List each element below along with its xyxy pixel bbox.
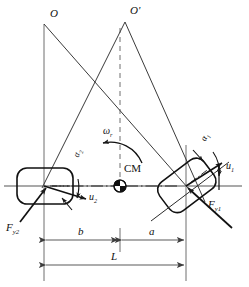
- label-o-prime: O': [130, 5, 140, 16]
- yaw-rate-arc: [103, 142, 142, 163]
- label-u2: u2: [89, 192, 97, 204]
- construction-lines: [44, 24, 186, 281]
- label-yaw-rate: ωr: [103, 126, 112, 138]
- ray-oprime-to-left-wheel: [42, 22, 125, 188]
- figure-canvas: O O' ωr CM α2 α1 u2 u1 Fy2 Fy1 b a L: [0, 0, 249, 287]
- rear-slip-angle-group: [44, 179, 86, 210]
- yaw-rate-subscript: r: [110, 131, 112, 138]
- yaw-rate-symbol: ω: [103, 125, 110, 136]
- label-u1: u1: [226, 161, 234, 173]
- ray-o-to-right-wheel: [44, 24, 188, 188]
- label-dim-L: L: [111, 251, 117, 262]
- label-dim-a: a: [149, 226, 155, 237]
- label-o: O: [50, 8, 58, 19]
- front-slip-angle-group: [186, 150, 222, 190]
- fy2-symbol: F: [6, 221, 13, 233]
- label-fy1: Fy1: [208, 199, 221, 213]
- center-of-mass-marker: [114, 180, 126, 192]
- fy1-symbol: F: [208, 198, 215, 210]
- fy2-subscript: y2: [13, 228, 19, 235]
- label-cm: CM: [124, 163, 141, 174]
- label-fy2: Fy2: [6, 222, 19, 236]
- u1-subscript: 1: [231, 166, 234, 173]
- slip-angle-pointer-1: [193, 150, 203, 161]
- instant-centre-rays: [42, 22, 205, 202]
- label-dim-b: b: [78, 226, 84, 237]
- ray-oprime-to-right-side: [125, 22, 205, 202]
- slip-angle-arc-1: [213, 152, 219, 176]
- lateral-force-rear: [20, 188, 46, 222]
- diagram-svg: [0, 0, 249, 287]
- u2-subscript: 2: [94, 197, 97, 204]
- slip-angle-arc-2: [77, 179, 79, 198]
- velocity-vector-u2: [44, 186, 86, 199]
- fy1-subscript: y1: [215, 205, 221, 212]
- force-vector-fy2: [20, 188, 46, 222]
